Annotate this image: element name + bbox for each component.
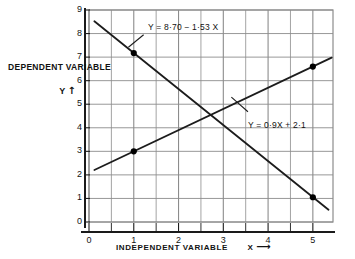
y-axis-title: DEPENDENT VARIABLE	[8, 62, 111, 73]
y-axis-tick-label: 9	[71, 5, 82, 14]
y-axis-tick-label: 2	[71, 170, 82, 179]
series-lines	[94, 21, 331, 209]
y-axis-symbol: Y	[59, 86, 65, 96]
y-axis-arrow-icon: ↑	[68, 85, 76, 96]
y-axis-tick-label: 0	[71, 217, 82, 226]
y-axis-tick-label: 3	[71, 146, 82, 155]
annotation-leader-line	[128, 35, 143, 47]
x-axis-tick-label: 0	[83, 236, 95, 245]
data-point-marker	[310, 63, 316, 69]
y-axis-symbol-row: Y ↑	[8, 86, 76, 96]
y-axis-tick-label: 6	[71, 76, 82, 85]
x-axis-tick-label: 3	[217, 236, 229, 245]
regression-line	[94, 58, 331, 170]
y-axis-tick-label: 5	[71, 99, 82, 108]
regression-line	[94, 21, 328, 209]
x-axis-tick-label: 1	[128, 236, 140, 245]
y-axis-tick-label: 8	[71, 29, 82, 38]
x-axis-tick-label: 5	[307, 236, 319, 245]
y-axis-tick-label: 1	[71, 193, 82, 202]
annotation-leaders	[128, 35, 248, 112]
chart-figure: DEPENDENT VARIABLE Y ↑ INDEPENDENT VARIA…	[0, 0, 355, 259]
x-axis-symbol: X	[248, 243, 254, 252]
data-point-marker	[131, 148, 137, 154]
x-axis-tick-label: 2	[173, 236, 185, 245]
data-point-marker	[310, 194, 316, 200]
y-axis-tick-label: 4	[71, 123, 82, 132]
equation-label-ascending: Y = 0·9X + 2·1	[248, 120, 306, 130]
y-axis-title-text: DEPENDENT VARIABLE	[8, 62, 111, 72]
x-axis-tick-label: 4	[262, 236, 274, 245]
equation-label-descending: Y = 8·70 − 1·53 X	[148, 22, 218, 32]
y-axis-tick-label: 7	[71, 52, 82, 61]
data-point-marker	[131, 50, 137, 56]
